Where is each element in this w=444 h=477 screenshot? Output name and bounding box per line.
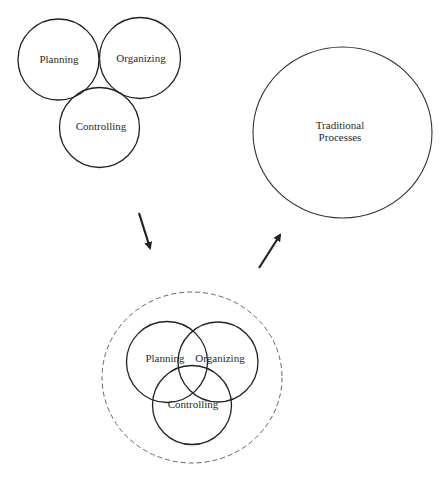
arrow-down-icon bbox=[139, 213, 150, 248]
traditional-label-line2: Processes bbox=[316, 131, 365, 143]
bottom-cluster bbox=[102, 292, 282, 463]
arrows bbox=[139, 213, 280, 268]
arrow-up-icon bbox=[259, 235, 280, 268]
bottom-controlling-label: Controlling bbox=[168, 398, 219, 410]
traditional-label-line1: Traditional bbox=[316, 119, 365, 131]
bottom-organizing-label: Organizing bbox=[195, 352, 244, 364]
top-planning-label: Planning bbox=[39, 53, 78, 65]
top-controlling-label: Controlling bbox=[76, 120, 127, 132]
top-organizing-label: Organizing bbox=[116, 52, 165, 64]
bottom-planning-label: Planning bbox=[145, 352, 184, 364]
top-cluster bbox=[18, 18, 181, 168]
diagram-canvas bbox=[0, 0, 444, 477]
traditional-processes-label: Traditional Processes bbox=[316, 119, 365, 143]
